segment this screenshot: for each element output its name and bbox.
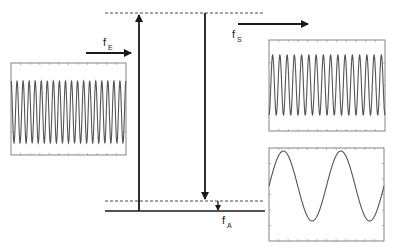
svg-text:f: f xyxy=(232,28,236,40)
signal-frequency-label: f S xyxy=(232,28,242,43)
idler-frequency-label: f A xyxy=(222,214,232,229)
pump-frequency-label: f E xyxy=(103,36,113,51)
input-waveform-panel xyxy=(11,63,126,155)
svg-text:f: f xyxy=(103,36,107,48)
output-low-frequency-panel xyxy=(269,148,384,241)
frequency-diagram: f E f S f A xyxy=(0,0,393,252)
output-high-frequency-panel xyxy=(269,40,385,131)
svg-text:f: f xyxy=(222,214,226,226)
svg-text:A: A xyxy=(227,222,232,229)
svg-text:E: E xyxy=(108,44,113,51)
svg-text:S: S xyxy=(237,36,242,43)
